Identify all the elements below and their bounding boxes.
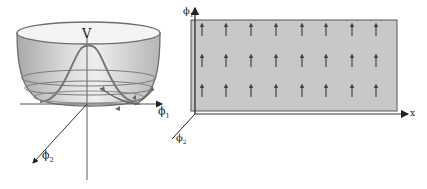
x-axis-label: x — [410, 109, 415, 118]
field-plane-graphic — [170, 0, 427, 189]
phi1-axis-label: ϕ1 — [158, 106, 170, 120]
field-plane — [191, 20, 397, 111]
potential-label: V — [82, 27, 91, 40]
phi1-axis-label: ϕ1 — [183, 6, 194, 18]
mexican-hat-potential-diagram: V ϕ1 ϕ2 — [0, 0, 180, 189]
phi2-axis-label: ϕ2 — [176, 133, 187, 145]
phi2-axis-label: ϕ2 — [42, 150, 54, 164]
field-configuration-diagram: ϕ1 x ϕ2 — [170, 0, 427, 189]
